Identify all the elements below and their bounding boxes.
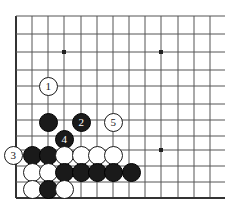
stone-black — [122, 163, 141, 182]
numbered-stone-2: 2 — [72, 113, 91, 132]
star-point — [159, 148, 163, 152]
stone-white — [104, 146, 123, 165]
stone-black — [55, 163, 74, 182]
star-point — [62, 50, 66, 54]
stone-number-label: 1 — [45, 80, 50, 91]
stone-number-label: 5 — [110, 116, 115, 127]
numbered-stone-5: 5 — [104, 113, 123, 132]
stone-black — [39, 113, 58, 132]
stone-number-label: 3 — [10, 149, 15, 160]
go-board-diagram: 12543 — [0, 0, 225, 215]
stone-number-label: 4 — [61, 133, 66, 144]
stone-number-label: 2 — [78, 116, 83, 127]
stone-white — [55, 146, 74, 165]
star-point — [159, 50, 163, 54]
stone-black — [104, 163, 123, 182]
stone-white — [55, 180, 74, 199]
numbered-stone-3: 3 — [4, 146, 23, 165]
numbered-stone-1: 1 — [39, 77, 58, 96]
